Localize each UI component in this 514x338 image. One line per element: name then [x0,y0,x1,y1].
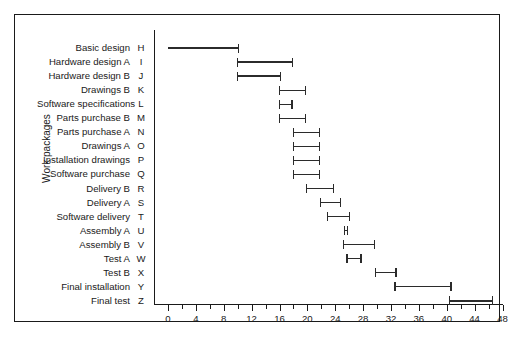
task-code: N [133,127,149,137]
gantt-bar [237,75,281,76]
gantt-bar-end-cap [492,296,493,305]
task-label: Test A [37,254,130,264]
task-label: Parts purchase B [37,113,130,123]
task-code: I [133,57,149,67]
gantt-bar-start-cap [279,114,280,123]
gantt-bar-end-cap [291,100,292,109]
gantt-bar-end-cap [340,198,341,207]
x-tick-minor [210,305,211,309]
gantt-bar [346,258,361,259]
x-tick-major [252,305,253,311]
gantt-bar [327,216,350,217]
task-code: V [133,240,149,250]
x-tick-minor [461,305,462,309]
gantt-bar [293,174,320,175]
gantt-bar-end-cap [450,282,451,291]
gantt-bar-start-cap [293,128,294,137]
x-tick-minor [377,305,378,309]
gantt-bar-start-cap [306,184,307,193]
chart-frame: Work packages Basic designHHardware desi… [14,14,500,322]
gantt-bar-start-cap [344,226,345,235]
gantt-bar-end-cap [360,254,361,263]
gantt-bar-end-cap [238,44,239,53]
x-tick-major [224,305,225,311]
x-tick-major [391,305,392,311]
gantt-bar-end-cap [319,128,320,137]
task-label: Installation drawings [37,155,130,165]
gantt-bar-start-cap [279,86,280,95]
gantt-bar-start-cap [293,142,294,151]
gantt-bar [293,132,320,133]
x-tick-minor [433,305,434,309]
gantt-bar-start-cap [237,58,238,67]
x-tick-label: 4 [185,313,207,324]
x-tick-minor [238,305,239,309]
task-code: W [133,254,149,264]
x-tick-minor [182,305,183,309]
x-tick-label: 24 [324,313,346,324]
x-tick-major [196,305,197,311]
task-label: Delivery B [37,184,130,194]
x-tick-label: 36 [408,313,430,324]
gantt-bar-end-cap [319,156,320,165]
task-code: Z [133,296,149,306]
task-label: Basic design [37,43,130,53]
gantt-bar-end-cap [319,142,320,151]
task-label: Hardware design B [37,71,130,81]
gantt-bar-end-cap [280,72,281,81]
task-label: Final installation [37,282,130,292]
gantt-bar [237,61,293,62]
gantt-bar [168,47,239,48]
gantt-bar [306,188,334,189]
task-label: Final test [37,296,130,306]
gantt-bar-end-cap [395,268,396,277]
x-tick-label: 20 [296,313,318,324]
x-tick-major [363,305,364,311]
gantt-bar [293,160,320,161]
task-label: Drawings B [37,85,130,95]
gantt-bar-end-cap [292,58,293,67]
task-label: Assembly B [37,240,130,250]
task-label: Test B [37,268,130,278]
gantt-bar-end-cap [374,240,375,249]
gantt-bar-start-cap [346,254,347,263]
gantt-bar-start-cap [327,212,328,221]
gantt-bar-start-cap [279,100,280,109]
x-tick-minor [293,305,294,309]
x-tick-minor [489,305,490,309]
gantt-bar-start-cap [343,240,344,249]
task-code: J [133,71,149,81]
gantt-bar [279,118,306,119]
task-code: H [133,43,149,53]
task-code: P [133,155,149,165]
gantt-bar [449,300,494,301]
gantt-bar-end-cap [305,86,306,95]
task-label: Drawings A [37,141,130,151]
x-tick-major [168,305,169,311]
task-code: S [133,198,149,208]
task-code: Y [133,282,149,292]
plot-area: 04812162024283236404448 [154,30,504,318]
x-tick-label: 48 [492,313,514,324]
gantt-bar [320,202,341,203]
x-tick-label: 44 [464,313,486,324]
task-code: Q [133,169,149,179]
task-code: X [133,268,149,278]
x-tick-major [475,305,476,311]
gantt-bar-start-cap [375,268,376,277]
x-tick-major [503,305,504,311]
x-tick-label: 12 [241,313,263,324]
task-label-column: Basic designHHardware design AIHardware … [37,30,154,318]
task-label: Software specifications [37,99,130,109]
gantt-bar-start-cap [449,296,450,305]
gantt-bar-start-cap [394,282,395,291]
task-code: L [133,99,149,109]
gantt-bar-start-cap [293,156,294,165]
task-label: Software purchase [37,169,130,179]
x-tick-minor [405,305,406,309]
x-tick-label: 28 [352,313,374,324]
task-code: M [133,113,149,123]
x-tick-label: 8 [213,313,235,324]
gantt-chart-figure: Work packages Basic designHHardware desi… [0,0,514,338]
task-label: Parts purchase A [37,127,130,137]
